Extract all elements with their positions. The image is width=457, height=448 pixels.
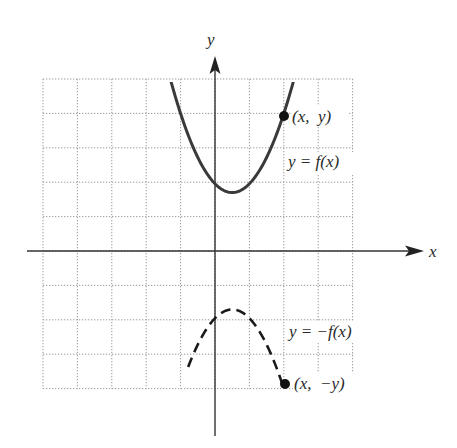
label-y-equals-f-x: y = f(x) bbox=[286, 152, 339, 171]
axes: x y bbox=[27, 30, 437, 436]
x-axis-label: x bbox=[428, 242, 437, 261]
point-label-x-neg-y: (x, −y) bbox=[294, 374, 345, 393]
point-label-x-y: (x, y) bbox=[292, 107, 332, 126]
label-y-equals-neg-f-x: y = −f(x) bbox=[287, 322, 352, 341]
y-axis-label: y bbox=[205, 30, 215, 49]
point-x-y-marker bbox=[279, 111, 289, 121]
curve-neg-f bbox=[188, 309, 292, 416]
curve-f bbox=[167, 66, 298, 193]
reflection-graph: x y (x, y) y = f(x) y = −f(x) (x, −y) bbox=[0, 0, 457, 448]
point-x-neg-y-marker bbox=[280, 379, 290, 389]
